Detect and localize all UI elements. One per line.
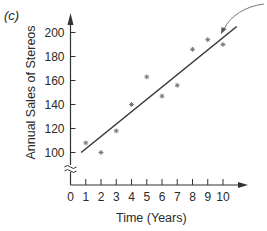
data-point: [114, 129, 119, 134]
x-tick-label: 5: [143, 190, 150, 204]
data-point: [175, 83, 180, 88]
y-tick-label: 140: [44, 98, 64, 112]
annotation-arrowhead-icon: [221, 27, 227, 34]
axis-break-icon: [65, 166, 77, 169]
x-tick-label: 1: [82, 190, 89, 204]
x-axis-title: Time (Years): [116, 211, 187, 225]
y-tick-label: 100: [44, 146, 64, 160]
y-axis-arrow-icon: [68, 13, 74, 25]
x-tick-label: 4: [128, 190, 135, 204]
data-point: [99, 150, 104, 155]
chart: (c)100120140160180200Annual Sales of Ste…: [0, 0, 267, 231]
data-point: [129, 102, 134, 107]
y-axis-title: Annual Sales of Stereos: [24, 25, 38, 159]
x-axis-arrow-icon: [238, 182, 248, 188]
data-point: [160, 94, 165, 99]
x-tick-label: 10: [216, 190, 230, 204]
x-tick-label: 7: [174, 190, 181, 204]
y-tick-label: 180: [44, 50, 64, 64]
x-tick-label: 2: [98, 190, 105, 204]
x-tick-label: 8: [189, 190, 196, 204]
data-point: [144, 75, 149, 80]
x-tick-label: 3: [113, 190, 120, 204]
x-tick-label: 6: [159, 190, 166, 204]
y-tick-label: 200: [44, 26, 64, 40]
data-point: [221, 42, 226, 47]
data-point: [205, 37, 210, 42]
annotation-arrow: [224, 4, 264, 29]
y-tick-label: 120: [44, 122, 64, 136]
y-tick-label: 160: [44, 74, 64, 88]
data-point: [83, 141, 88, 146]
panel-label: (c): [4, 8, 19, 23]
x-tick-label: 0: [67, 190, 74, 204]
trend-line: [81, 27, 237, 153]
data-point: [190, 47, 195, 52]
x-tick-label: 9: [204, 190, 211, 204]
